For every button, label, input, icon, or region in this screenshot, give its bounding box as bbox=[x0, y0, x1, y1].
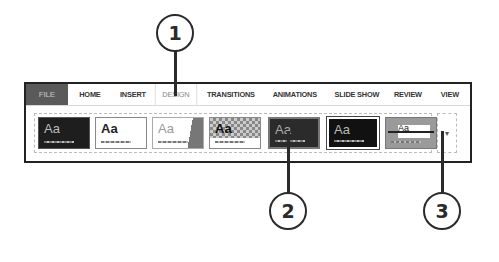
theme-label: Aa bbox=[158, 121, 174, 136]
theme-label: Aa bbox=[44, 121, 60, 136]
theme-label: Aa bbox=[334, 122, 350, 137]
theme-color-bar bbox=[391, 141, 421, 143]
tab-animations[interactable]: ANIMATIONS bbox=[265, 84, 324, 105]
theme-color-bar bbox=[44, 141, 74, 143]
theme-line bbox=[388, 131, 434, 133]
tab-file[interactable]: FILE bbox=[26, 84, 68, 105]
theme-color-bar bbox=[275, 140, 305, 142]
theme-color-bar bbox=[158, 141, 188, 143]
theme-thumbnail-white[interactable]: Aa bbox=[95, 117, 147, 149]
theme-thumbnail-black[interactable]: Aa bbox=[327, 117, 379, 149]
callout-3: 3 bbox=[423, 192, 461, 230]
theme-color-bar bbox=[101, 141, 131, 143]
callout-1-number: 1 bbox=[168, 22, 181, 44]
theme-thumbnail-dark[interactable]: Aa bbox=[38, 117, 90, 149]
ribbon-panel: FILE HOME INSERT DESIGN TRANSITIONS ANIM… bbox=[24, 82, 472, 163]
callout-1-leader bbox=[174, 51, 177, 96]
callout-2-number: 2 bbox=[281, 200, 294, 222]
callout-1: 1 bbox=[156, 14, 194, 52]
theme-label: Aa bbox=[215, 121, 232, 136]
tab-transitions[interactable]: TRANSITIONS bbox=[202, 84, 261, 105]
tab-slide-show[interactable]: SLIDE SHOW bbox=[329, 84, 384, 105]
tab-insert[interactable]: INSERT bbox=[113, 84, 151, 105]
theme-thumbnail-checker[interactable]: Aa bbox=[209, 117, 261, 149]
callout-2-leader bbox=[287, 131, 290, 193]
callout-2: 2 bbox=[269, 192, 307, 230]
theme-thumbnail-dark-gray[interactable]: Aa bbox=[268, 117, 320, 149]
theme-label: Aa bbox=[101, 121, 118, 136]
callout-3-number: 3 bbox=[435, 200, 448, 222]
themes-gallery: Aa Aa Aa Aa Aa Aa Aa bbox=[34, 113, 432, 153]
theme-thumbnail-facet[interactable]: Aa bbox=[152, 117, 204, 149]
more-themes-button[interactable]: ▾ bbox=[437, 113, 457, 153]
tab-home[interactable]: HOME bbox=[70, 84, 110, 105]
callout-3-leader bbox=[441, 131, 444, 193]
theme-color-bar bbox=[215, 141, 245, 143]
ribbon-tabs: FILE HOME INSERT DESIGN TRANSITIONS ANIM… bbox=[26, 84, 470, 106]
theme-color-bar bbox=[334, 140, 364, 142]
tab-review[interactable]: REVIEW bbox=[388, 84, 428, 105]
theme-thumbnail-gray-band[interactable]: Aa bbox=[385, 117, 437, 149]
theme-footer bbox=[210, 138, 260, 148]
tab-view[interactable]: VIEW bbox=[432, 84, 469, 105]
